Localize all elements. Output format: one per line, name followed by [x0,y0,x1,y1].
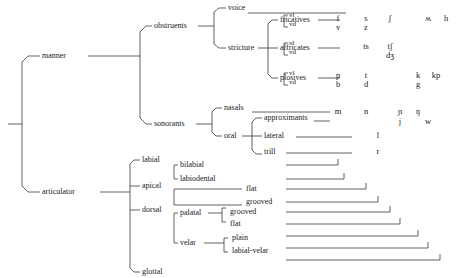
node-sonorants[interactable]: sonorants [154,119,185,128]
voicing-label-plosives-vl: vl [289,70,294,78]
sonorants-branch-lines [196,108,222,136]
phoneme-g: g [416,80,420,89]
phoneme-h: h [444,14,448,23]
node-velar-labial-velar[interactable]: labial-velar [232,246,268,255]
node-trill[interactable]: trill [264,147,276,156]
node-apical-flat[interactable]: flat [246,184,257,193]
manner-branch-lines [88,26,152,124]
node-apical-grooved[interactable]: grooved [246,197,272,206]
stricture-branch-lines [258,20,278,78]
articulator-branch-lines [100,160,140,272]
labial-branch-lines [174,165,178,179]
node-palatal-flat[interactable]: flat [230,219,241,228]
node-velar[interactable]: velar [180,238,196,247]
voicing-label-plosives-vd: vd [289,79,296,87]
oral-branch-lines [242,118,262,154]
voicing-label-fricatives-vd: vd [289,21,296,29]
node-approximants[interactable]: approximants [264,113,308,122]
node-velar-plain[interactable]: plain [232,233,248,242]
dorsal-branch-lines [174,213,178,243]
node-articulator[interactable]: articulator [42,187,75,196]
palatal-branch-lines [208,208,226,222]
sonorant-row-rules [286,121,352,153]
node-palatal[interactable]: palatal [180,208,201,217]
phoneme-turned-w: ʍ [425,14,431,23]
node-glottal[interactable]: glottal [142,267,162,276]
phoneme-w: w [425,117,431,126]
node-apical[interactable]: apical [142,181,161,190]
obstruents-branch-lines [198,8,226,48]
phoneme-r: r [377,147,380,156]
phoneme-v: v [336,23,340,32]
phoneme-palatal-nasal: ɲ [398,107,402,116]
node-lateral[interactable]: lateral [264,131,284,140]
node-manner[interactable]: manner [42,51,66,60]
phoneme-n: n [364,107,368,116]
phoneme-esh: ʃ [389,14,392,23]
phoneme-z: z [364,23,368,32]
voicing-label-affricates-vd: vd [289,49,296,57]
node-oral[interactable]: oral [224,131,236,140]
phoneme-d: d [364,80,368,89]
phoneme-l: l [377,131,379,140]
node-dorsal[interactable]: dorsal [142,205,162,214]
velar-branch-lines [204,238,228,252]
root-bracket [8,56,40,192]
node-palatal-grooved[interactable]: grooved [230,207,256,216]
phoneme-kp: kp [432,71,441,80]
apical-branch-lines [174,189,242,205]
voicing-label-affricates-vl: vl [289,40,294,48]
phoneme-b: b [336,80,340,89]
node-nasals[interactable]: nasals [224,103,244,112]
phoneme-ts: ts [363,42,369,51]
node-bilabial[interactable]: bilabial [180,160,204,169]
node-obstruents[interactable]: obstruents [154,21,187,30]
phoneme-j: j [399,117,401,126]
phoneme-dezh: dʒ [386,51,394,60]
phoneme-m: m [335,107,342,116]
node-labiodental[interactable]: labiodental [180,174,216,183]
phoneme-velar-nasal: ŋ [416,107,420,116]
articulator-column-rules [286,159,440,260]
node-stricture[interactable]: stricture [228,43,254,52]
node-labial[interactable]: labial [142,155,160,164]
voicing-label-fricatives-vl: vl [289,12,294,20]
node-voice[interactable]: voice [228,3,245,12]
